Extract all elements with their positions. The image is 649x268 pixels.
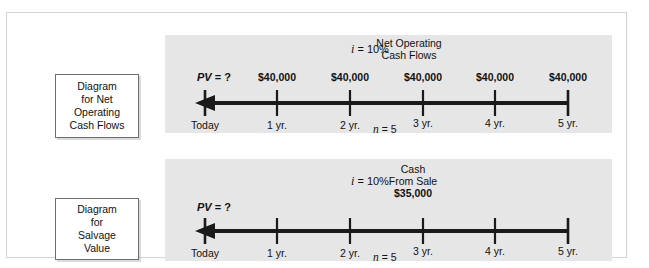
tick-label-year-1: 1 yr. — [267, 119, 287, 131]
tick-label-year-4: 4 yr. — [485, 117, 505, 129]
diagram-panel-salvage-value: i = 10% Cash From Sale $35,000 PV = ? To… — [165, 159, 612, 261]
caption-box-net-operating-cash-flows: Diagram for Net Operating Cash Flows — [55, 74, 139, 138]
scan-top-artifact — [18, 0, 138, 8]
caption-line: Diagram — [77, 203, 117, 216]
periods-label-net-operating: n = 5 — [373, 123, 397, 135]
tick-label-year-2: 2 yr. — [340, 247, 360, 259]
tick-label-year-2: 2 yr. — [340, 119, 360, 131]
tick-label-year-1: 1 yr. — [267, 247, 287, 259]
timeline-axis-net-operating — [165, 35, 612, 133]
caption-box-salvage-value: Diagram for Salvage Value — [55, 198, 139, 260]
tick-label-today: Today — [191, 247, 219, 259]
tick-label-today: Today — [191, 119, 219, 131]
tick-label-year-5: 5 yr. — [558, 245, 578, 257]
caption-line: for — [91, 216, 103, 229]
tick-label-year-3: 3 yr. — [413, 117, 433, 129]
caption-line: Salvage — [78, 229, 116, 242]
caption-line: Diagram — [77, 80, 117, 93]
tick-label-year-4: 4 yr. — [485, 245, 505, 257]
diagram-panel-net-operating-cash-flows: i = 10% Net Operating Cash Flows PV = ? … — [165, 35, 612, 133]
caption-line: Cash Flows — [70, 119, 125, 132]
periods-label-salvage: n = 5 — [373, 251, 397, 263]
tick-label-year-5: 5 yr. — [558, 117, 578, 129]
caption-line: for Net — [81, 93, 113, 106]
timeline-axis-salvage — [165, 159, 612, 261]
tick-label-year-3: 3 yr. — [413, 245, 433, 257]
caption-line: Value — [84, 242, 110, 255]
figure-frame: Diagram for Net Operating Cash Flows i =… — [6, 12, 627, 258]
caption-line: Operating — [74, 106, 120, 119]
